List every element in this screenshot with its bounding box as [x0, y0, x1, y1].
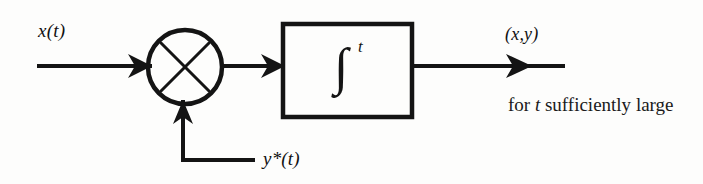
- diagram-canvas: ∫ t: [0, 0, 703, 184]
- output-caption: for t sufficiently large: [508, 94, 688, 115]
- block-diagram-figure: ∫ t x(t) y*(t) (x,y) for t sufficiently …: [0, 0, 703, 184]
- caption-suffix: sufficiently: [540, 94, 631, 115]
- multiply-icon: [161, 43, 209, 91]
- input-signal-label: x(t): [38, 20, 65, 41]
- svg-text:t: t: [358, 37, 364, 56]
- caption-line2: large: [636, 94, 674, 115]
- caption-prefix: for: [508, 94, 535, 115]
- output-signal-label: (x,y): [505, 24, 538, 44]
- feedback-line: [183, 100, 255, 160]
- svg-text:∫: ∫: [331, 38, 351, 98]
- integral-icon: ∫ t: [331, 37, 364, 98]
- feedback-signal-label: y*(t): [263, 148, 300, 169]
